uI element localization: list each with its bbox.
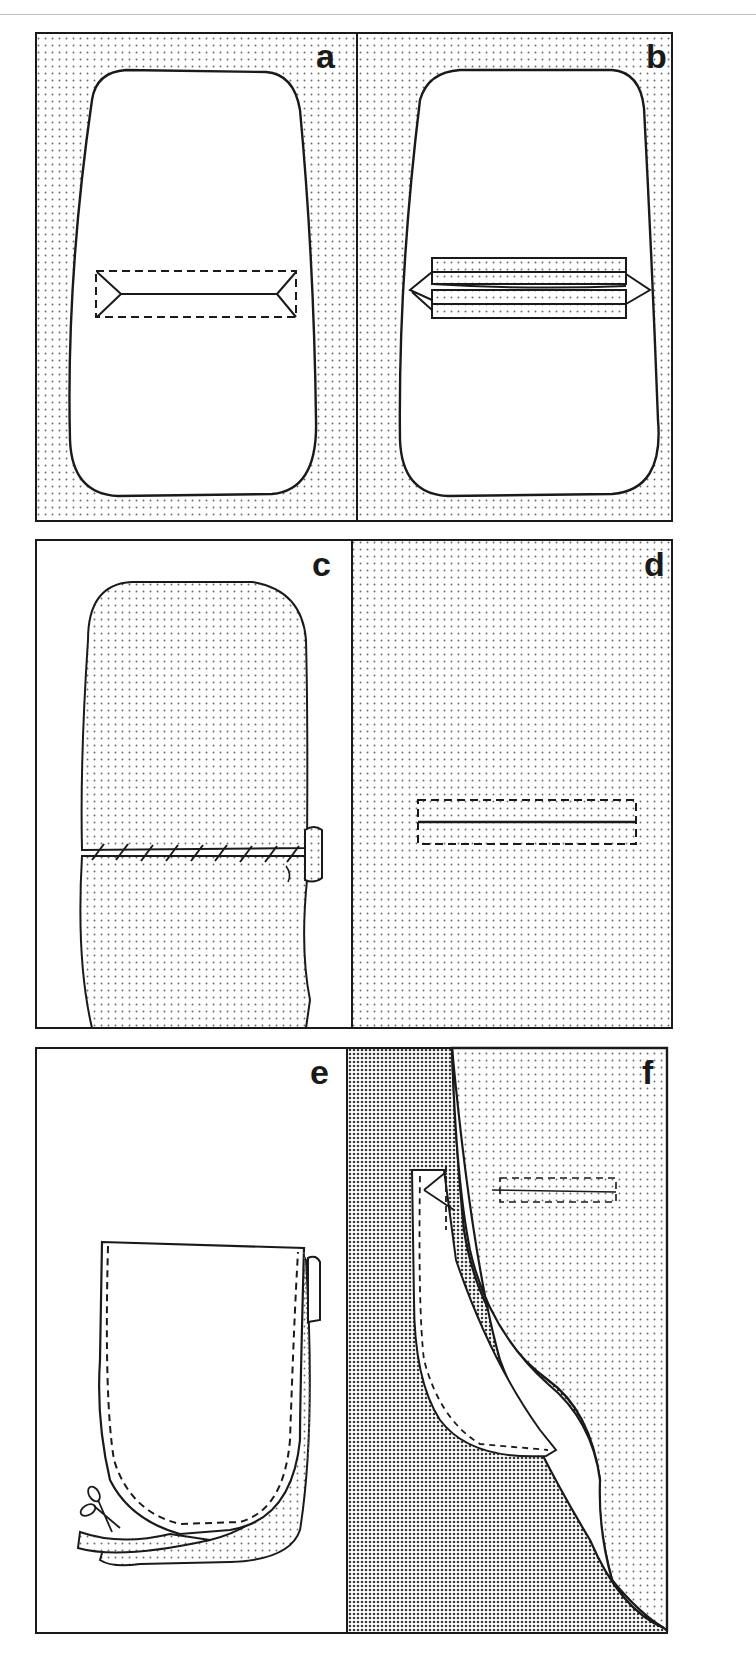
panel-d: d [352,540,672,1028]
panel-f: f [347,1048,667,1633]
panel-b: b [357,33,672,521]
panel-e-label: e [310,1053,329,1091]
panel-b-label: b [646,37,667,75]
welt-tab [308,1257,320,1322]
welt-tab [305,827,322,882]
panel-e: e [36,1048,347,1633]
panel-c: c [36,540,352,1028]
sewing-diagram: a b c d [0,0,756,1666]
panel-a-label: a [316,37,336,75]
pocket-lower-half [80,856,310,1028]
panel-f-label: f [642,1053,654,1091]
pocket-bag-outline [99,1242,304,1534]
panel-a: a [36,33,357,521]
panel-d-label: d [644,545,665,583]
panel-c-label: c [312,545,331,583]
pocket-upper-half [82,582,308,850]
pocket-piece-outline [69,70,316,496]
